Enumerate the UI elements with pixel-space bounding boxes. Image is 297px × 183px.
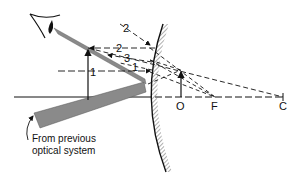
incoming-beam [34,82,146,128]
label-ray2-reflected: 2 [116,42,122,54]
caption-line-2: optical system [32,145,142,157]
reflected-beam [54,28,146,84]
caption: From previous optical system [32,133,142,157]
label-center: C [279,100,287,112]
label-object: O [176,100,185,112]
caption-line-1: From previous [32,133,142,145]
convex-mirror [151,24,172,172]
eye-icon [30,14,60,38]
label-ray2-incoming: 2 [123,22,129,34]
rays [58,24,283,97]
label-ray1-left: 1 [90,66,96,78]
label-focus: F [211,100,218,112]
label-ray3: 3 [124,52,130,64]
label-ray1-right: 1 [132,61,138,73]
optical-axis [14,93,285,101]
optics-diagram: 2 2 3 1 1 O F C From previous optical sy… [0,0,297,183]
